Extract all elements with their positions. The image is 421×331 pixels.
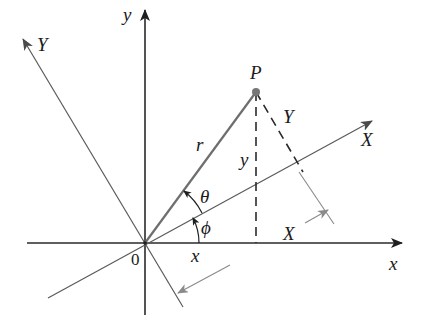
X-dimension-arrow-right: [305, 210, 328, 223]
point-P: [252, 88, 260, 96]
x-segment-label: x: [190, 245, 200, 266]
theta-label: θ: [200, 186, 209, 207]
X-dimension-arrow-left: [178, 265, 230, 293]
phi-arc: [193, 218, 199, 243]
Y-axis-label: Y: [37, 34, 50, 55]
dashed-Y-projection: [256, 92, 303, 172]
x-axis-label: x: [388, 253, 398, 274]
Y-segment-label: Y: [283, 106, 296, 127]
rotated-x-axis: [48, 121, 372, 298]
origin-label: 0: [131, 250, 140, 269]
origin-point: [143, 241, 147, 245]
r-label: r: [196, 134, 204, 155]
y-segment-label: y: [238, 149, 249, 170]
rotated-y-axis: [23, 39, 183, 307]
y-axis-label: y: [121, 4, 132, 25]
rotation-diagram: y x Y X P r y Y x X θ ϕ 0: [0, 0, 421, 331]
phi-label: ϕ: [201, 217, 211, 238]
point-P-label: P: [249, 62, 262, 83]
X-segment-label: X: [282, 223, 296, 244]
X-axis-label: X: [360, 129, 374, 150]
